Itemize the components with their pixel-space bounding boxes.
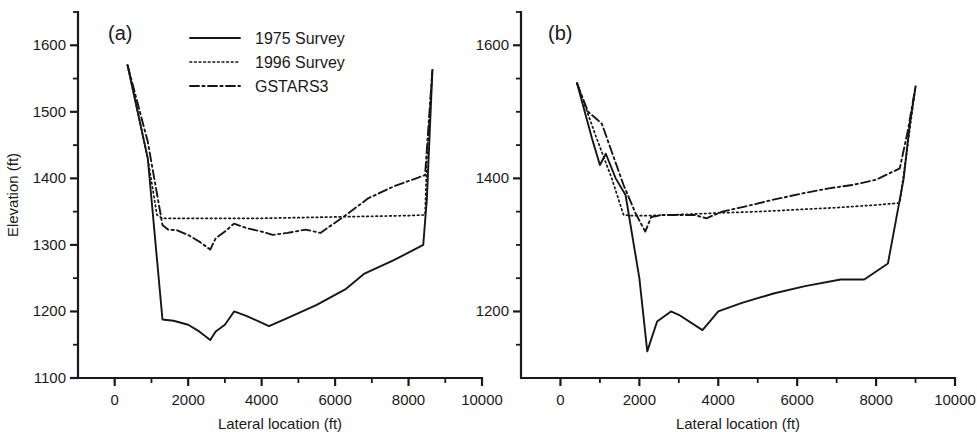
y-axis-title: Elevation (ft) [4, 153, 21, 237]
x-axis-title: Lateral location (ft) [218, 415, 342, 432]
panel-tag-label: (a) [108, 22, 132, 44]
x-axis-title: Lateral location (ft) [676, 415, 800, 432]
legend-label: 1996 Survey [255, 54, 345, 71]
x-tick-label: 8000 [859, 391, 892, 408]
x-tick-label: 10000 [461, 391, 503, 408]
y-tick-label: 1500 [33, 103, 66, 120]
legend-label: GSTARS3 [255, 78, 329, 95]
y-tick-label: 1200 [33, 302, 66, 319]
x-tick-label: 0 [111, 391, 119, 408]
x-tick-label: 6000 [318, 391, 351, 408]
y-tick-label: 1100 [34, 369, 66, 386]
figure-svg: 1100120013001400150016000200040006000800… [0, 0, 977, 432]
figure-background [0, 0, 977, 432]
legend-label: 1975 Survey [255, 30, 345, 47]
x-tick-label: 0 [556, 391, 564, 408]
y-tick-label: 1300 [33, 236, 66, 253]
x-tick-label: 10000 [934, 391, 976, 408]
x-tick-label: 4000 [245, 391, 278, 408]
y-tick-label: 1200 [476, 302, 509, 319]
x-tick-label: 2000 [171, 391, 204, 408]
y-tick-label: 1400 [476, 169, 509, 186]
x-tick-label: 6000 [780, 391, 813, 408]
x-tick-label: 8000 [392, 391, 425, 408]
y-tick-label: 1400 [33, 169, 66, 186]
y-tick-label: 1600 [33, 36, 66, 53]
x-tick-label: 2000 [623, 391, 656, 408]
panel-tag-label: (b) [548, 22, 572, 44]
y-tick-label: 1600 [476, 36, 509, 53]
x-tick-label: 4000 [702, 391, 735, 408]
figure-container: 1100120013001400150016000200040006000800… [0, 0, 977, 432]
